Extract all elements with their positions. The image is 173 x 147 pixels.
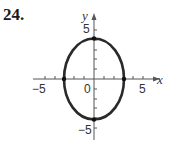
x-tick-label-neg5: −5 <box>32 82 46 96</box>
point-0-4 <box>92 36 96 40</box>
x-tick-label-0: 0 <box>84 82 91 96</box>
ellipse-chart: x y −5 0 5 5 −5 <box>0 0 173 147</box>
x-tick-label-5: 5 <box>139 82 146 96</box>
y-axis-arrow-icon <box>92 13 97 20</box>
point-3-0 <box>122 77 126 81</box>
point-0-neg4 <box>92 117 96 121</box>
y-tick-label-5: 5 <box>83 22 90 36</box>
x-axis-label: x <box>156 72 163 87</box>
y-tick-label-neg5: −5 <box>78 123 92 137</box>
x-axis <box>33 76 157 79</box>
point-neg3-0 <box>62 77 66 81</box>
y-axis-label: y <box>80 8 88 23</box>
